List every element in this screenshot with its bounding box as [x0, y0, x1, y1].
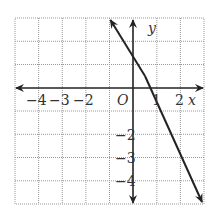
x-tick-label: −3: [49, 92, 70, 108]
y-tick-label: −4: [115, 173, 136, 189]
x-axis-label: x: [188, 92, 196, 108]
y-axis-label: y: [147, 20, 157, 36]
x-tick-label: 2: [175, 92, 184, 108]
x-tick-label: −2: [73, 92, 94, 108]
x-tick-label: 1: [152, 92, 161, 108]
coordinate-plane: y x O −4 −3 −2 1 2 −2 −3 −4: [0, 0, 218, 215]
y-tick-label: −3: [115, 150, 136, 166]
x-tick-label: −4: [26, 92, 47, 108]
plotted-line: [111, 20, 146, 76]
y-tick-label: −2: [115, 127, 136, 143]
origin-label: O: [117, 92, 129, 108]
grid: [15, 18, 204, 204]
